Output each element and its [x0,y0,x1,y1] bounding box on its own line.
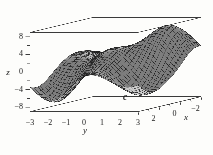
surface-figure: z y x c 840−4−8−3−2−1012320−2 [0,0,213,155]
surface-plot-canvas [0,0,213,155]
